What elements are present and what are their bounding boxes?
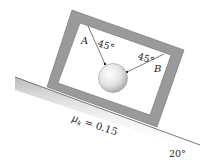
label-cord-b: B bbox=[153, 63, 161, 74]
label-cord-a: A bbox=[80, 35, 88, 46]
cord-a-knot bbox=[104, 63, 106, 65]
label-incline-angle: 20° bbox=[169, 148, 186, 159]
diagram-canvas: A 45° 45° B μk = 0.15 20° bbox=[0, 0, 219, 167]
ball bbox=[99, 64, 128, 93]
label-angle-b: 45° bbox=[136, 50, 155, 66]
